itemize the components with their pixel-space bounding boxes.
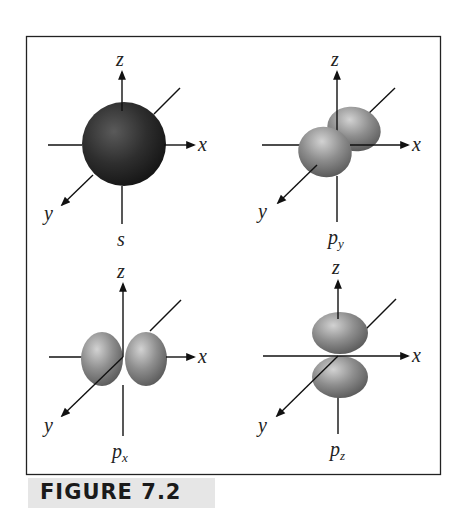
y-axis bbox=[278, 165, 317, 203]
orbital-figure: z x y s z x y py z x y px bbox=[0, 0, 467, 508]
px-lobe-right bbox=[125, 332, 167, 386]
s-orbital-sphere bbox=[82, 102, 166, 186]
z-axis-label: z bbox=[331, 256, 340, 278]
orbital-label-px: px bbox=[110, 440, 128, 465]
orbital-label-py: py bbox=[326, 226, 344, 251]
x-axis-label: x bbox=[197, 133, 207, 155]
y-axis-label: y bbox=[256, 200, 267, 223]
y-axis-back bbox=[154, 88, 180, 114]
y-axis-label: y bbox=[42, 414, 53, 437]
pz-lobe-bottom bbox=[312, 356, 368, 398]
orbital-label-pz: pz bbox=[328, 438, 345, 463]
y-axis bbox=[62, 175, 93, 205]
z-axis-label: z bbox=[330, 48, 339, 70]
y-axis-back bbox=[150, 300, 181, 331]
orbital-label-s: s bbox=[117, 228, 125, 250]
figure-frame bbox=[27, 37, 441, 475]
panel-s: z x y s bbox=[42, 48, 207, 250]
pz-lobe-top bbox=[312, 312, 368, 354]
y-axis-label: y bbox=[42, 202, 53, 225]
panel-py: z x y py bbox=[256, 48, 421, 251]
x-axis-label: x bbox=[411, 133, 421, 155]
z-axis-label: z bbox=[116, 260, 125, 282]
x-axis-label: x bbox=[197, 345, 207, 367]
y-axis-back bbox=[366, 88, 395, 116]
z-axis-label: z bbox=[115, 48, 124, 70]
panel-px: z x y px bbox=[42, 260, 207, 465]
y-axis-back bbox=[366, 299, 396, 329]
panel-pz: z x y pz bbox=[256, 256, 421, 463]
y-axis-label: y bbox=[256, 414, 267, 437]
x-axis-label: x bbox=[411, 344, 421, 366]
figure-caption: FIGURE 7.2 bbox=[40, 480, 181, 504]
